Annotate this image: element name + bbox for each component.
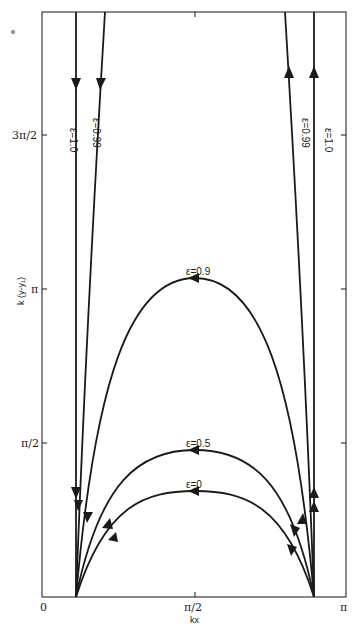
x-tick-label: π <box>340 601 347 614</box>
scan-speck <box>11 30 15 34</box>
arrow-down-left-icon <box>102 518 113 529</box>
curve-label-eps-0: ε=0 <box>186 479 202 490</box>
arrow-down-icon <box>71 78 81 90</box>
curve-label-eps-0.99-left: ε=0.99 <box>91 118 102 148</box>
curve-label-eps-1-left: ε=1.0 <box>68 128 79 153</box>
curve-label-eps-0.99-right: ε=0.99 <box>300 118 311 148</box>
y-tick-label: 3π/2 <box>12 129 37 142</box>
x-axis-label: kx <box>190 615 200 625</box>
curve-eps-0.99-right <box>285 12 314 597</box>
phase-trajectory-chart: π/2 π 3π/2 0 π/2 π kx k (y-y₁) ε=0.9 ε=0… <box>0 0 361 631</box>
curve-eps-0 <box>76 491 314 597</box>
x-tick-label: π/2 <box>184 601 202 614</box>
curve-label-eps-0.9: ε=0.9 <box>186 266 211 277</box>
y-tick-label: π/2 <box>21 437 39 450</box>
arrow-up-left-icon <box>290 524 300 537</box>
curve-label-eps-1-right: ε=1.0 <box>323 128 334 153</box>
x-tick-label: 0 <box>40 601 47 614</box>
arrow-down-left-icon <box>108 532 118 542</box>
y-axis-label: k (y-y₁) <box>16 277 26 305</box>
curve-eps-0.99-left <box>76 12 105 597</box>
curve-label-eps-0.5: ε=0.5 <box>186 438 211 449</box>
y-tick-label: π <box>31 283 38 296</box>
arrow-up-icon <box>309 66 319 78</box>
curve-eps-0.5 <box>76 450 314 597</box>
arrow-up-icon <box>284 66 294 78</box>
